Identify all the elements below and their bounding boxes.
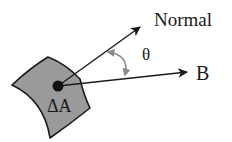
area-center-dot xyxy=(53,81,64,92)
b-field-label: B xyxy=(196,62,209,84)
angle-theta-label: θ xyxy=(142,45,150,64)
area-delta-a-label: ΔA xyxy=(47,96,72,116)
normal-vector-arrow xyxy=(58,27,140,86)
angle-arc-icon xyxy=(108,52,126,75)
normal-label: Normal xyxy=(154,9,212,30)
flux-diagram: Normal θ B ΔA xyxy=(0,0,232,142)
